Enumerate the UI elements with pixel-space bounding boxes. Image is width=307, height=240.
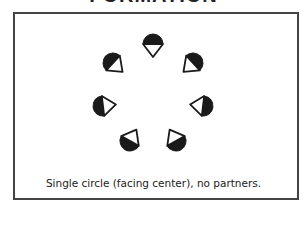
dancer-icon [143,34,163,57]
dancer-icon [177,49,207,79]
dancer-icon [99,49,129,79]
formation-caption: Single circle (facing center), no partne… [0,177,307,189]
dancer-icon [189,95,214,118]
dancer-icon [161,125,190,155]
dancer-icon [116,125,145,155]
dancer-icon [92,95,117,118]
